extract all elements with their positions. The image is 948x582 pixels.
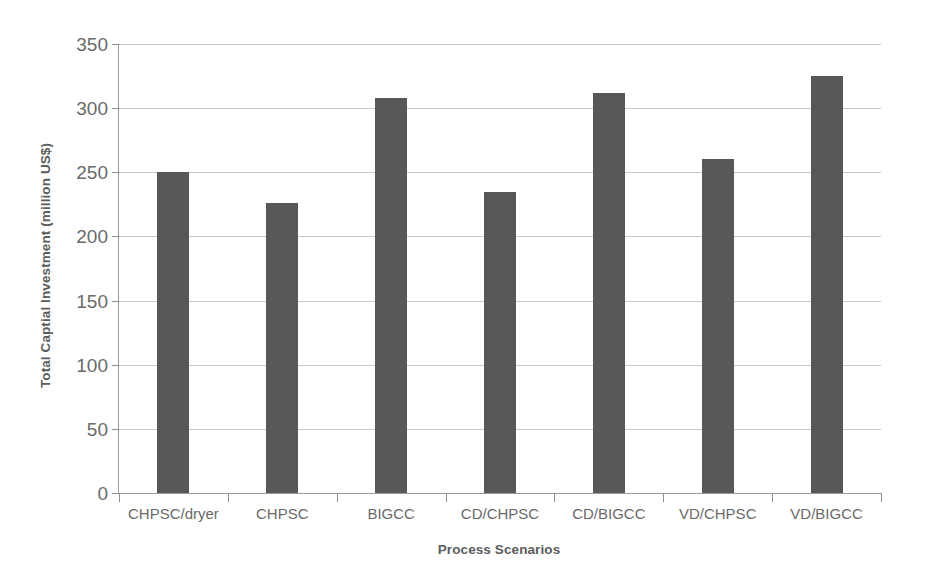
y-axis-tick-mark [112, 108, 119, 109]
x-axis-tick-label: CHPSC/dryer [128, 506, 219, 521]
y-axis-tick-label: 350 [76, 35, 108, 54]
y-axis-tick-label: 0 [97, 484, 108, 503]
y-axis-tick-mark [112, 493, 119, 494]
x-axis-tick-mark [228, 493, 229, 502]
x-axis-title: Process Scenarios [118, 542, 880, 557]
x-axis-tick-label: CD/BIGCC [572, 506, 645, 521]
x-axis-tick-label: VD/BIGCC [790, 506, 863, 521]
bar [593, 93, 625, 493]
x-axis-tick-mark [881, 493, 882, 502]
plot-area: 050100150200250300350 CHPSC/dryerCHPSCBI… [118, 44, 881, 494]
y-axis-tick-mark [112, 236, 119, 237]
x-axis-tick-label: VD/CHPSC [679, 506, 757, 521]
bar-chart-figure: Total Captial Investment (million US$) 0… [0, 0, 948, 582]
y-axis-tick-label: 150 [76, 291, 108, 310]
x-axis-tick-label: BIGCC [367, 506, 415, 521]
x-axis-tick-label: CHPSC [256, 506, 309, 521]
bar [484, 192, 516, 493]
bar-slot [446, 44, 555, 493]
bar-slot [337, 44, 446, 493]
bar [702, 159, 734, 493]
x-axis-tick-mark [554, 493, 555, 502]
x-axis-tick-mark [119, 493, 120, 502]
y-axis-tick-label: 300 [76, 99, 108, 118]
bar-slot [119, 44, 228, 493]
y-axis-tick-mark [112, 44, 119, 45]
bar-slot [228, 44, 337, 493]
y-axis-tick-label: 200 [76, 227, 108, 246]
x-axis-tick-mark [446, 493, 447, 502]
bar [157, 172, 189, 493]
y-axis-tick-label: 100 [76, 355, 108, 374]
x-axis-tick-mark [772, 493, 773, 502]
y-axis-tick-mark [112, 365, 119, 366]
bar-slot [772, 44, 881, 493]
x-axis-tick-mark [663, 493, 664, 502]
bars-group [119, 44, 881, 493]
bar-slot [663, 44, 772, 493]
bar-slot [554, 44, 663, 493]
bar [375, 98, 407, 493]
bar [811, 76, 843, 493]
x-axis-tick-label: CD/CHPSC [461, 506, 539, 521]
bar [266, 203, 298, 493]
y-axis-tick-mark [112, 172, 119, 173]
y-axis-tick-mark [112, 429, 119, 430]
x-axis-tick-mark [337, 493, 338, 502]
y-axis-tick-mark [112, 301, 119, 302]
y-axis-tick-label: 50 [87, 419, 108, 438]
y-axis-title: Total Captial Investment (million US$) [38, 41, 60, 490]
y-axis-tick-label: 250 [76, 163, 108, 182]
